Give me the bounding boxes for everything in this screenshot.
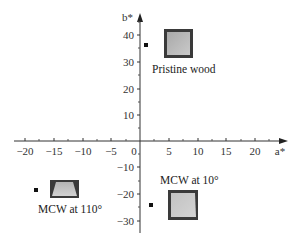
- x-tick-label: 10: [193, 145, 205, 157]
- point-pristine-wood: Pristine wood: [144, 29, 216, 75]
- x-tick-label: 15: [221, 145, 233, 157]
- annotation-mcw-110: MCW at 110°: [38, 203, 102, 215]
- data-marker: [34, 188, 38, 192]
- annotation-pristine-wood: Pristine wood: [152, 63, 216, 75]
- y-tick-label: 40: [123, 29, 135, 41]
- y-tick-label: 20: [123, 83, 135, 95]
- point-mcw-110: MCW at 110°: [34, 180, 102, 215]
- x-tick-label: −5: [105, 145, 117, 157]
- data-marker: [144, 43, 148, 47]
- data-marker: [149, 203, 153, 207]
- y-tick-label: −10: [117, 161, 135, 173]
- x-axis-title: a*: [275, 145, 285, 157]
- scatter-chart: −20 −15 −10 −5 0 5 10 15 20 a* 40 30 20 …: [0, 0, 300, 244]
- y-tick-label: −20: [117, 188, 135, 200]
- x-tick-label: 20: [250, 145, 262, 157]
- y-tick-label: 10: [123, 109, 135, 121]
- annotation-mcw-10: MCW at 10°: [160, 174, 219, 186]
- x-axis: −20 −15 −10 −5 0 5 10 15 20 a*: [14, 138, 288, 157]
- x-tick-label: 0: [131, 145, 137, 157]
- point-mcw-10: MCW at 10°: [149, 174, 219, 220]
- x-tick-label: −15: [45, 145, 63, 157]
- y-tick-label: 30: [123, 56, 135, 68]
- y-axis-arrow-icon: [137, 13, 143, 22]
- x-tick-label: 5: [166, 145, 172, 157]
- y-tick-label: −30: [117, 215, 135, 227]
- y-axis-title: b*: [122, 11, 133, 23]
- x-tick-label: −10: [74, 145, 92, 157]
- x-axis-arrow-icon: [279, 138, 288, 144]
- x-tick-label: −20: [16, 145, 34, 157]
- y-axis: 40 30 20 10 −10 −20 −30 b*: [117, 11, 143, 233]
